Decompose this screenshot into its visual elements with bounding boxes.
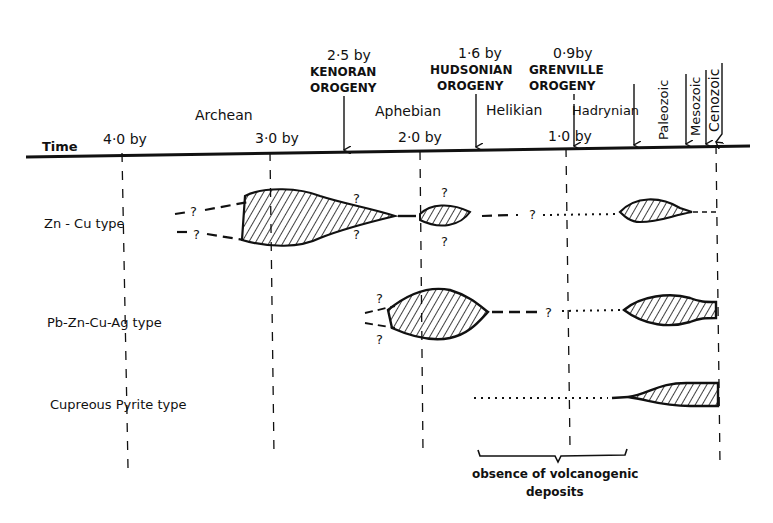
era-mesozoic: Mesozoic — [688, 77, 703, 136]
cupreous-pyrite-row — [474, 383, 718, 406]
svg-text:0·9by: 0·9by — [553, 45, 592, 61]
svg-text:?: ? — [545, 305, 552, 320]
svg-text:?: ? — [441, 185, 448, 200]
row-label-pb-zn-cu-ag: Pb-Zn-Cu-Ag type — [47, 315, 162, 330]
row-label-zn-cu: Zn - Cu type — [44, 216, 125, 231]
svg-text:KENORAN: KENORAN — [310, 65, 376, 79]
svg-text:OROGENY: OROGENY — [437, 79, 504, 93]
svg-text:?: ? — [376, 291, 383, 306]
gap-annotation-line1: obsence of volcanogenic — [472, 467, 638, 481]
time-axis — [26, 146, 750, 157]
gap-annotation-line2: deposits — [526, 485, 584, 499]
svg-text:?: ? — [441, 234, 448, 249]
svg-text:?: ? — [193, 227, 200, 242]
svg-text:2·5 by: 2·5 by — [327, 47, 371, 63]
era-cenozoic: Cenozoic — [706, 69, 722, 132]
svg-text:GRENVILLE: GRENVILLE — [529, 63, 604, 77]
eon-helikian: Helikian — [486, 102, 542, 118]
pb-zn-cu-ag-row: ? ? ? — [365, 289, 716, 347]
tick-label-2-0: 2·0 by — [398, 129, 442, 145]
zn-cu-row: ? ? ? ? ? ? ? — [175, 185, 716, 249]
svg-text:?: ? — [353, 227, 360, 242]
svg-text:HUDSONIAN: HUDSONIAN — [430, 63, 512, 77]
row-label-cupreous-pyrite: Cupreous Pyrite type — [50, 397, 186, 412]
svg-text:?: ? — [529, 207, 536, 222]
time-label: Time — [42, 139, 78, 154]
eon-archean: Archean — [195, 107, 253, 123]
eon-hadrynian: Hadrynian — [572, 103, 639, 118]
tick-label-3-0: 3·0 by — [255, 130, 299, 146]
era-paleozoic: Paleozoic — [656, 80, 671, 140]
svg-text:OROGENY: OROGENY — [529, 79, 596, 93]
eon-aphebian: Aphebian — [375, 103, 441, 119]
svg-text:?: ? — [190, 204, 197, 219]
svg-text:?: ? — [353, 191, 360, 206]
volcanogenic-deposit-timeline-diagram: Time 4·0 by 3·0 by 2·0 by 1·0 by Archean… — [0, 0, 773, 523]
svg-text:OROGENY: OROGENY — [310, 81, 377, 95]
svg-text:1·6 by: 1·6 by — [458, 45, 502, 61]
svg-text:?: ? — [376, 332, 383, 347]
tick-label-1-0: 1·0 by — [548, 128, 592, 144]
gap-bracket — [478, 449, 627, 462]
orogeny-hudsonian: 1·6 by HUDSONIAN OROGENY — [430, 45, 512, 147]
tick-label-4-0: 4·0 by — [103, 131, 147, 147]
orogeny-kenoran: 2·5 by KENORAN OROGENY — [310, 47, 377, 150]
